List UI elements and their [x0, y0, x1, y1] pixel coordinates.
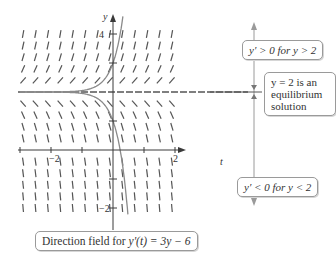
equilibrium-line1: y = 2 is an [271, 76, 329, 88]
slope-segment [35, 204, 36, 212]
slope-segment [85, 169, 86, 177]
slope-segment [147, 204, 148, 212]
slope-segment [120, 101, 125, 107]
slope-segment [96, 53, 98, 61]
slope-segment [134, 123, 136, 131]
slope-segment [169, 101, 174, 107]
slope-segment [59, 53, 61, 61]
t-tick-label: −2 [49, 153, 60, 164]
axis-ticks: −224−2 [20, 29, 178, 214]
slope-segment [159, 134, 161, 142]
slope-segment [96, 112, 99, 119]
slope-segment [34, 65, 37, 72]
slope-segment [59, 123, 61, 131]
t-axis-label: t [220, 156, 223, 167]
slope-segment [22, 134, 24, 142]
slope-segment [97, 134, 99, 142]
equilibrium-callout: y = 2 is an equilibrium solution [264, 72, 336, 116]
slope-segment [35, 30, 36, 38]
positive-lhs: y′ > 0 for [249, 44, 293, 56]
caption-prefix: Direction field for [42, 235, 129, 247]
solution-curve-below-equilibrium [20, 92, 128, 214]
y-axis-arrow-icon [110, 14, 116, 22]
slope-segment [171, 169, 172, 177]
positive-slope-callout: y′ > 0 for y > 2 [242, 40, 323, 60]
slope-segment [121, 134, 123, 142]
slope-segment [169, 77, 174, 83]
slope-segment [47, 123, 49, 131]
slope-segment [172, 204, 173, 212]
slope-segment [158, 53, 160, 61]
slope-segment [170, 112, 173, 119]
slope-segment [171, 134, 173, 142]
slope-segment [134, 204, 135, 212]
slope-segment [171, 123, 173, 131]
t-axis-arrow-icon [178, 147, 186, 153]
negative-lhs: y′ < 0 for [244, 181, 288, 193]
slope-segment [72, 123, 74, 131]
slope-segment [132, 101, 137, 107]
slope-segment [34, 123, 36, 131]
slope-segment [97, 169, 98, 177]
slope-segment [46, 65, 49, 72]
slope-segment [146, 123, 148, 131]
slope-segment [171, 53, 173, 61]
slope-segment [45, 101, 50, 107]
negative-rhs: y < 2 [288, 181, 311, 193]
slope-segment [134, 192, 135, 200]
slope-segment [83, 65, 86, 72]
slope-segment [107, 101, 112, 107]
slope-segment [22, 30, 23, 38]
slope-segment [157, 101, 162, 107]
slope-segment [59, 65, 62, 72]
slope-segment [84, 134, 86, 142]
slope-segment [109, 169, 110, 177]
slope-segment [159, 158, 160, 166]
slope-segment [97, 158, 98, 166]
slope-segment [22, 53, 24, 61]
slope-segment [109, 53, 111, 61]
y-axis-label: y [102, 11, 108, 22]
slope-segment [95, 101, 100, 107]
equilibrium-line2: equilibrium [271, 88, 329, 100]
equilibrium-line3: solution [271, 100, 329, 112]
slope-segment [146, 134, 148, 142]
slope-segment [121, 112, 124, 119]
slope-segment [159, 42, 161, 50]
slope-segment [72, 53, 74, 61]
slope-segment [146, 30, 147, 38]
slope-segment [34, 53, 36, 61]
slope-segment [72, 169, 73, 177]
slope-segment [97, 42, 99, 50]
slope-segment [85, 192, 86, 200]
slope-segment [158, 112, 161, 119]
slope-segment [144, 77, 149, 83]
slope-segment [145, 65, 148, 72]
slope-segment [85, 158, 86, 166]
slope-segment [71, 65, 74, 72]
slope-segment [72, 134, 74, 142]
positive-rhs: y > 2 [293, 44, 316, 56]
slope-segment [84, 53, 86, 61]
slope-segment [48, 192, 49, 200]
slope-segment [172, 192, 173, 200]
slope-segment [145, 112, 148, 119]
slope-segment [71, 112, 74, 119]
slope-segment [83, 112, 86, 119]
slope-segment [171, 30, 172, 38]
slope-segment [147, 169, 148, 177]
slope-segment [96, 65, 99, 72]
slope-segment [45, 77, 50, 83]
slope-segment [134, 181, 135, 189]
slope-segment [60, 169, 61, 177]
slope-segment [33, 77, 38, 83]
slope-segment [85, 204, 86, 212]
slope-segment [158, 123, 160, 131]
slope-segment [171, 181, 172, 189]
slope-segment [72, 192, 73, 200]
slope-segment [35, 192, 36, 200]
slope-segment [97, 192, 98, 200]
slope-segment [72, 181, 73, 189]
slope-segment [47, 30, 48, 38]
